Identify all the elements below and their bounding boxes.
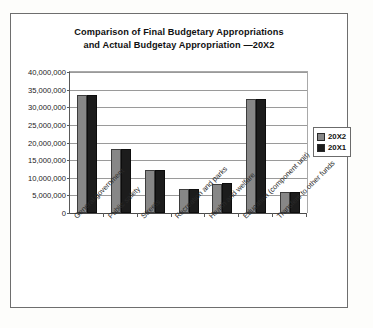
y-axis-tick-label: 10,000,000 (28, 173, 66, 182)
legend-swatch-icon (317, 144, 325, 152)
legend-label: 20X1 (328, 142, 346, 153)
x-axis-tick-mark (171, 213, 172, 217)
legend-label: 20X2 (328, 131, 346, 142)
x-axis-tick-mark (204, 213, 205, 217)
chart-frame: Comparison of Final Budgetary Appropriat… (10, 13, 348, 308)
x-axis-tick-mark (306, 213, 307, 217)
chart-legend: 20X220X1 (313, 127, 351, 157)
chart-title-line-2: and Actual Budgetay Appropriation —20X2 (11, 39, 347, 52)
y-axis-tick-label: 20,000,000 (28, 138, 66, 147)
x-axis-tick-mark (137, 213, 138, 217)
legend-swatch-icon (317, 133, 325, 141)
legend-item[interactable]: 20X2 (317, 131, 346, 142)
y-axis-tick-label: 0 (62, 209, 66, 218)
y-axis-tick-label: 35,000,000 (28, 85, 66, 94)
x-axis-tick-mark (272, 213, 273, 217)
legend-item[interactable]: 20X1 (317, 142, 346, 153)
chart-title: Comparison of Final Budgetary Appropriat… (11, 26, 347, 51)
y-axis-tick-label: 25,000,000 (28, 120, 66, 129)
bar-group (138, 72, 172, 213)
y-axis-tick-label: 15,000,000 (28, 156, 66, 165)
y-axis-tick-label: 30,000,000 (28, 103, 66, 112)
bar-20x2[interactable] (246, 99, 256, 213)
chart-title-line-1: Comparison of Final Budgetary Appropriat… (11, 26, 347, 39)
y-axis-tick-label: 40,000,000 (28, 68, 66, 77)
y-axis-tick-label: 5,000,000 (32, 191, 66, 200)
x-axis-tick-mark (103, 213, 104, 217)
bar-20x2[interactable] (77, 95, 87, 213)
x-axis-tick-mark (238, 213, 239, 217)
